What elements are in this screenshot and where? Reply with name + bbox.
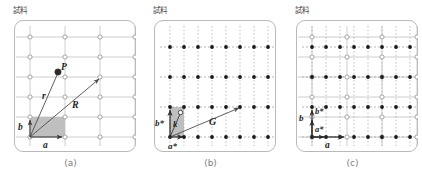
panel-c: 試料 bbox=[284, 0, 421, 182]
sample-label-a: 試料 bbox=[13, 4, 27, 15]
label-axis-b-star: b* bbox=[155, 118, 165, 128]
grid-lines-vertical-b bbox=[170, 26, 268, 146]
lattice-points-recip-c bbox=[310, 45, 412, 139]
label-axis-a: a bbox=[43, 140, 48, 150]
grid-lines-vertical-real-c bbox=[312, 26, 417, 146]
grid-lines-horizontal-real-c bbox=[298, 37, 418, 137]
panel-a-plot: P r R a b bbox=[14, 20, 136, 152]
caption-b: (b) bbox=[142, 158, 279, 168]
label-axis-a-star: a* bbox=[168, 141, 178, 151]
panel-b: 試料 bbox=[142, 0, 279, 182]
sample-label-c: 試料 bbox=[295, 4, 309, 15]
caption-a: (a) bbox=[2, 158, 139, 168]
label-vector-r: r bbox=[42, 91, 46, 101]
label-axis-a-star-c: a* bbox=[315, 124, 324, 134]
vector-k-tip-marker bbox=[178, 110, 182, 114]
unit-cell-shade-a bbox=[30, 117, 65, 137]
caption-c: (c) bbox=[284, 158, 421, 168]
label-axis-b-star-c: b* bbox=[315, 106, 324, 116]
label-vector-G: G bbox=[209, 116, 217, 127]
label-axis-a-c: a bbox=[325, 140, 330, 150]
label-vector-R: R bbox=[71, 99, 79, 110]
grid-lines-vertical-recip-c bbox=[312, 26, 410, 146]
crystallography-figure: 試料 bbox=[0, 0, 422, 182]
label-axis-b-c: b bbox=[299, 113, 304, 123]
panel-c-plot: a b a* b* bbox=[296, 20, 418, 152]
label-axis-b: b bbox=[18, 122, 23, 132]
panel-a: 試料 bbox=[2, 0, 139, 182]
panel-b-plot: G k a* b* bbox=[154, 20, 276, 152]
sample-label-b: 試料 bbox=[153, 4, 167, 15]
label-point-P: P bbox=[61, 62, 67, 72]
